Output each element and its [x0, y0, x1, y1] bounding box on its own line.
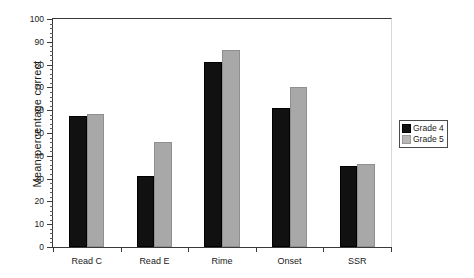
y-axis-minor-tick — [50, 188, 53, 189]
legend-item-grade-4: Grade 4 — [402, 123, 444, 134]
x-axis-tick-label: Onset — [278, 256, 302, 266]
x-axis-tick-label: SSR — [348, 256, 367, 266]
legend-label-grade-5: Grade 5 — [413, 134, 444, 145]
y-axis-minor-tick — [50, 138, 53, 139]
y-axis-major-tick — [47, 42, 53, 43]
x-axis-tick — [53, 247, 54, 252]
y-axis-minor-tick — [50, 160, 53, 161]
bar-read-e-grade-4 — [137, 176, 155, 247]
y-axis-minor-tick — [50, 165, 53, 166]
x-axis-tick — [391, 247, 392, 252]
y-axis-tick-label: 40 — [35, 151, 44, 161]
y-axis-minor-tick — [50, 238, 53, 239]
bar-read-c-grade-5 — [87, 114, 105, 247]
y-axis-minor-tick — [50, 24, 53, 25]
legend-item-grade-5: Grade 5 — [402, 134, 444, 145]
bar-onset-grade-4 — [272, 108, 290, 247]
y-axis-minor-tick — [50, 215, 53, 216]
y-axis-major-tick — [47, 201, 53, 202]
bar-rime-grade-5 — [222, 50, 240, 247]
y-axis-minor-tick — [50, 83, 53, 84]
legend-label-grade-4: Grade 4 — [413, 123, 444, 134]
y-axis-tick-label: 60 — [35, 105, 44, 115]
legend-swatch-grade-5 — [402, 135, 411, 144]
x-axis-tick — [323, 247, 324, 252]
y-axis-minor-tick — [50, 69, 53, 70]
legend-swatch-grade-4 — [402, 124, 411, 133]
y-axis-tick-label: 0 — [39, 242, 44, 252]
y-axis-minor-tick — [50, 197, 53, 198]
y-axis-minor-tick — [50, 211, 53, 212]
y-axis-minor-tick — [50, 119, 53, 120]
y-axis-minor-tick — [50, 151, 53, 152]
y-axis-minor-tick — [50, 78, 53, 79]
y-axis-major-tick — [47, 87, 53, 88]
y-axis-minor-tick — [50, 233, 53, 234]
y-axis-minor-tick — [50, 33, 53, 34]
y-axis-minor-tick — [50, 128, 53, 129]
y-axis-minor-tick — [50, 220, 53, 221]
y-axis-minor-tick — [50, 147, 53, 148]
y-axis-tick-label: 90 — [35, 37, 44, 47]
y-axis-minor-tick — [50, 124, 53, 125]
y-axis-minor-tick — [50, 28, 53, 29]
y-axis-tick-label: 100 — [30, 14, 44, 24]
y-axis-major-tick — [47, 110, 53, 111]
y-axis-minor-tick — [50, 55, 53, 56]
y-axis-minor-tick — [50, 74, 53, 75]
y-axis-major-tick — [47, 179, 53, 180]
plot-frame: 0102030405060708090100Read CRead ERimeOn… — [52, 18, 392, 248]
y-axis-tick-label: 50 — [35, 128, 44, 138]
x-axis-tick — [256, 247, 257, 252]
bar-onset-grade-5 — [290, 87, 308, 247]
y-axis-minor-tick — [50, 97, 53, 98]
y-axis-major-tick — [47, 65, 53, 66]
x-axis-tick-label: Read E — [139, 256, 169, 266]
y-axis-minor-tick — [50, 242, 53, 243]
chart-legend: Grade 4 Grade 5 — [399, 120, 448, 148]
y-axis-tick-label: 80 — [35, 60, 44, 70]
y-axis-major-tick — [47, 133, 53, 134]
y-axis-major-tick — [47, 19, 53, 20]
y-axis-minor-tick — [50, 169, 53, 170]
y-axis-minor-tick — [50, 60, 53, 61]
y-axis-minor-tick — [50, 101, 53, 102]
y-axis-minor-tick — [50, 115, 53, 116]
y-axis-major-tick — [47, 156, 53, 157]
y-axis-minor-tick — [50, 37, 53, 38]
bar-read-e-grade-5 — [154, 142, 172, 247]
y-axis-minor-tick — [50, 192, 53, 193]
y-axis-minor-tick — [50, 51, 53, 52]
y-axis-minor-tick — [50, 106, 53, 107]
y-axis-minor-tick — [50, 92, 53, 93]
y-axis-major-tick — [47, 224, 53, 225]
x-axis-tick-label: Read C — [72, 256, 103, 266]
bar-ssr-grade-5 — [357, 164, 375, 247]
x-axis-tick — [121, 247, 122, 252]
y-axis-minor-tick — [50, 183, 53, 184]
x-axis-tick-label: Rime — [211, 256, 232, 266]
y-axis-minor-tick — [50, 229, 53, 230]
y-axis-tick-label: 10 — [35, 219, 44, 229]
y-axis-minor-tick — [50, 174, 53, 175]
bar-ssr-grade-4 — [340, 166, 358, 247]
y-axis-minor-tick — [50, 46, 53, 47]
y-axis-tick-label: 70 — [35, 82, 44, 92]
y-axis-minor-tick — [50, 206, 53, 207]
plot-area: 0102030405060708090100Read CRead ERimeOn… — [53, 19, 391, 247]
y-axis-minor-tick — [50, 142, 53, 143]
bar-chart-figure: Mean percentage correct 0102030405060708… — [0, 0, 474, 278]
bar-rime-grade-4 — [204, 62, 222, 247]
x-axis-tick — [188, 247, 189, 252]
y-axis-tick-label: 30 — [35, 174, 44, 184]
y-axis-tick-label: 20 — [35, 196, 44, 206]
bar-read-c-grade-4 — [69, 116, 87, 247]
